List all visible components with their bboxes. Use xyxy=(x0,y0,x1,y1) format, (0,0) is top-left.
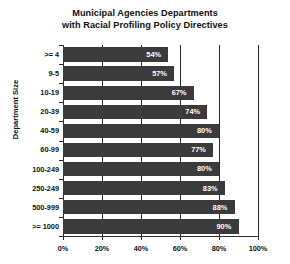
x-tick-label: 80% xyxy=(199,244,239,253)
bar-row: 80% xyxy=(63,160,258,179)
y-tick-label: 10-19 xyxy=(3,88,59,97)
bar xyxy=(63,219,239,233)
bar xyxy=(63,162,219,176)
y-tick-mark xyxy=(59,160,63,161)
x-tick-label: 0% xyxy=(43,244,83,253)
bar-row: 77% xyxy=(63,141,258,160)
y-tick-label: 9-5 xyxy=(3,69,59,78)
bar-row: 80% xyxy=(63,121,258,140)
bar-chart-figure: Municipal Agencies Departments with Raci… xyxy=(0,0,290,264)
bar-value-label: 74% xyxy=(185,105,200,119)
y-tick-mark xyxy=(59,45,63,46)
y-tick-label: 100-249 xyxy=(3,165,59,174)
y-tick-label: 60-99 xyxy=(3,145,59,154)
y-tick-label: 20-39 xyxy=(3,107,59,116)
bar-value-label: 57% xyxy=(152,67,167,81)
chart-title: Municipal Agencies Departments with Raci… xyxy=(0,8,290,31)
bar-value-label: 80% xyxy=(197,124,212,138)
bar-row: 54% xyxy=(63,45,258,64)
y-tick-mark xyxy=(59,217,63,218)
x-tick-mark xyxy=(141,236,142,240)
x-tick-mark xyxy=(219,236,220,240)
x-tick-label: 60% xyxy=(160,244,200,253)
x-axis-line xyxy=(63,236,259,237)
x-tick-mark xyxy=(63,236,64,240)
x-tick-mark xyxy=(180,236,181,240)
y-tick-label: 500-999 xyxy=(3,203,59,212)
y-tick-mark xyxy=(59,83,63,84)
gridline-100% xyxy=(258,45,259,236)
y-tick-mark xyxy=(59,102,63,103)
bar-value-label: 67% xyxy=(172,86,187,100)
bar-value-label: 90% xyxy=(217,220,232,234)
y-tick-mark xyxy=(59,179,63,180)
bar-row: 88% xyxy=(63,198,258,217)
x-tick-label: 40% xyxy=(121,244,161,253)
y-tick-label: 250-249 xyxy=(3,184,59,193)
bar-row: 57% xyxy=(63,64,258,83)
bar-row: 67% xyxy=(63,83,258,102)
x-tick-mark xyxy=(102,236,103,240)
y-tick-mark xyxy=(59,121,63,122)
bar-value-label: 54% xyxy=(146,48,161,62)
x-tick-mark xyxy=(258,236,259,240)
y-tick-mark xyxy=(59,64,63,65)
bar-value-label: 88% xyxy=(213,201,228,215)
y-tick-mark xyxy=(59,198,63,199)
y-tick-label: 40-59 xyxy=(3,126,59,135)
bar-value-label: 83% xyxy=(203,182,218,196)
bar xyxy=(63,124,219,138)
x-tick-label: 100% xyxy=(238,244,278,253)
y-tick-label: >= 4 xyxy=(3,50,59,59)
chart-title-line-1: Municipal Agencies Departments xyxy=(0,8,290,20)
bar-value-label: 77% xyxy=(191,143,206,157)
bar-row: 90% xyxy=(63,217,258,236)
plot-area: 54%57%67%74%80%77%80%83%88%90% xyxy=(63,45,258,236)
y-tick-mark xyxy=(59,141,63,142)
bar-row: 83% xyxy=(63,179,258,198)
bar xyxy=(63,200,235,214)
x-tick-label: 20% xyxy=(82,244,122,253)
bar-row: 74% xyxy=(63,102,258,121)
y-tick-label: >= 1000 xyxy=(3,222,59,231)
bar xyxy=(63,181,225,195)
chart-title-line-2: with Racial Profiling Policy Directives xyxy=(0,20,290,32)
bar-value-label: 80% xyxy=(197,162,212,176)
